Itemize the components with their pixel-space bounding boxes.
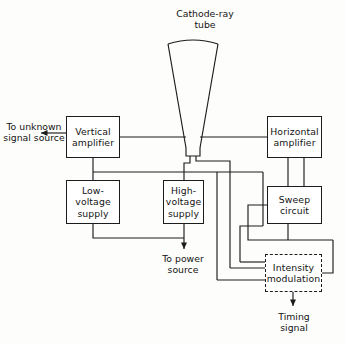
arrowhead-timing-signal — [290, 300, 296, 307]
block-intensity-modulation[interactable]: Intensity modulation — [265, 254, 322, 292]
wire-bus-to-intensity — [240, 226, 263, 262]
crt-screen-face — [168, 40, 218, 44]
block-high-voltage-supply[interactable]: High- voltage supply — [163, 180, 204, 224]
block-label-low-voltage-supply: Low- voltage supply — [67, 185, 119, 219]
arrowhead-power-source — [181, 243, 187, 250]
block-low-voltage-supply[interactable]: Low- voltage supply — [66, 180, 120, 224]
block-label-intensity-modulation: Intensity modulation — [266, 262, 321, 285]
wire-crt-stub-left — [184, 156, 190, 172]
label-to-unknown-signal-source: To unknown signal source — [2, 121, 66, 144]
label-timing-signal: Timing signal — [258, 311, 330, 334]
block-label-high-voltage-supply: High- voltage supply — [164, 185, 203, 219]
block-vertical-amplifier[interactable]: Vertical amplifier — [66, 116, 120, 158]
crt-neck — [186, 148, 200, 156]
block-horizontal-amplifier[interactable]: Horizontal amplifier — [267, 116, 322, 158]
block-diagram-svg — [0, 0, 345, 344]
crt-left-wall — [168, 44, 186, 148]
block-label-vertical-amplifier: Vertical amplifier — [67, 126, 119, 149]
crt-right-wall — [200, 44, 218, 148]
label-cathode-ray-tube: Cathode-ray tube — [160, 8, 250, 31]
block-sweep-circuit[interactable]: Sweep circuit — [267, 186, 322, 224]
diagram-canvas: Vertical amplifier Horizontal amplifier … — [0, 0, 345, 344]
block-label-sweep-circuit: Sweep circuit — [268, 194, 321, 217]
block-label-horizontal-amplifier: Horizontal amplifier — [268, 126, 321, 149]
wire-lowvolt-bottom — [93, 224, 184, 238]
wire-sweep-to-intensity — [322, 240, 333, 273]
label-to-power-source: To power source — [143, 253, 223, 276]
